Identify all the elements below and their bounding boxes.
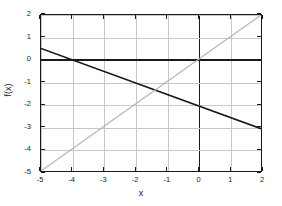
x-tick-label: -3: [93, 176, 113, 184]
x-tick-label: 1: [220, 176, 240, 184]
y-tick-mark: [257, 59, 261, 60]
y-tick-mark: [257, 81, 261, 82]
x-tick-mark: [71, 167, 72, 171]
x-tick-mark: [261, 15, 262, 19]
x-tick-label: 2: [252, 176, 272, 184]
x-tick-label: -5: [30, 176, 50, 184]
x-tick-mark: [39, 15, 40, 19]
x-tick-mark: [103, 167, 104, 171]
x-axis-label: x: [0, 188, 282, 198]
chart-figure: -5-4-3-2-1012 -5-4-3-2-1012 f(x) x: [0, 0, 282, 206]
y-axis-label: f(x): [3, 70, 13, 110]
y-tick-mark: [257, 149, 261, 150]
y-tick-mark: [41, 13, 45, 14]
x-tick-label: 0: [189, 176, 209, 184]
y-tick-label: 0: [5, 55, 31, 63]
y-tick-mark: [41, 149, 45, 150]
y-tick-mark: [257, 126, 261, 127]
x-tick-mark: [166, 15, 167, 19]
x-tick-mark: [135, 15, 136, 19]
x-tick-mark: [39, 167, 40, 171]
y-tick-mark: [257, 104, 261, 105]
x-tick-mark: [230, 167, 231, 171]
x-tick-mark: [198, 167, 199, 171]
data-series-layer: [41, 15, 261, 171]
x-tick-label: -4: [62, 176, 82, 184]
y-tick-mark: [41, 104, 45, 105]
plot-area: [40, 14, 262, 172]
x-tick-mark: [261, 167, 262, 171]
series-line-1: [41, 15, 261, 171]
y-tick-mark: [41, 59, 45, 60]
y-tick-label: 2: [5, 10, 31, 18]
y-tick-mark: [257, 13, 261, 14]
y-tick-mark: [257, 36, 261, 37]
x-tick-mark: [103, 15, 104, 19]
y-tick-mark: [41, 36, 45, 37]
y-tick-label: -5: [5, 168, 31, 176]
x-tick-mark: [198, 15, 199, 19]
y-tick-mark: [41, 81, 45, 82]
x-tick-mark: [230, 15, 231, 19]
x-tick-mark: [71, 15, 72, 19]
x-tick-label: -2: [125, 176, 145, 184]
y-tick-mark: [41, 126, 45, 127]
y-tick-mark: [257, 171, 261, 172]
x-tick-mark: [166, 167, 167, 171]
series-line-0: [41, 48, 261, 128]
x-tick-mark: [135, 167, 136, 171]
y-tick-label: -4: [5, 145, 31, 153]
x-tick-label: -1: [157, 176, 177, 184]
y-tick-mark: [41, 171, 45, 172]
y-tick-label: -3: [5, 123, 31, 131]
y-tick-label: 1: [5, 33, 31, 41]
